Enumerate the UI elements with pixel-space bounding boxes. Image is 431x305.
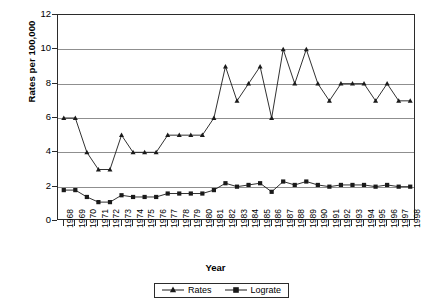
line-chart: Rates per 100,000 024681012 196819691970… [0, 0, 431, 305]
y-tick-label: 2 [25, 181, 51, 190]
data-point-rates [292, 81, 297, 86]
legend-marker-square-icon [225, 285, 247, 295]
x-tick-label: 1987 [286, 188, 294, 228]
y-tick-mark [52, 117, 57, 118]
x-tick-label: 1972 [112, 188, 120, 228]
x-tick-label: 1995 [378, 188, 386, 228]
data-point-lograte [304, 179, 308, 183]
data-point-lograte [385, 183, 389, 187]
x-tick-label: 1973 [124, 188, 132, 228]
x-tick-label: 1998 [413, 188, 421, 228]
data-point-lograte [362, 183, 366, 187]
x-tick-label: 1978 [182, 188, 190, 228]
x-tick-label: 1977 [170, 188, 178, 228]
data-point-rates [84, 150, 89, 155]
data-point-rates [269, 115, 274, 120]
x-tick-label: 1971 [101, 188, 109, 228]
x-tick-label: 1988 [297, 188, 305, 228]
x-axis-title: Year [0, 262, 431, 273]
x-tick-label: 1990 [320, 188, 328, 228]
legend-label-rates: Rates [188, 285, 212, 295]
y-tick-mark [52, 186, 57, 187]
x-tick-label: 1979 [193, 188, 201, 228]
x-tick-label: 1984 [251, 188, 259, 228]
x-tick-label: 1994 [367, 188, 375, 228]
data-point-lograte [281, 179, 285, 183]
chart-legend: Rates Lograte [154, 283, 289, 298]
y-tick-mark [52, 14, 57, 15]
y-tick-label: 4 [25, 146, 51, 155]
x-tick-label: 1989 [309, 188, 317, 228]
data-point-lograte [293, 183, 297, 187]
x-tick-label: 1986 [274, 188, 282, 228]
y-tick-label: 6 [25, 112, 51, 121]
data-point-rates [385, 81, 390, 86]
data-point-rates [281, 47, 286, 52]
y-tick-label: 12 [25, 9, 51, 18]
data-point-rates [119, 133, 124, 138]
series-line-rates [64, 49, 410, 169]
legend-item-lograte: Lograte [225, 285, 282, 295]
legend-item-rates: Rates [162, 285, 212, 295]
y-tick-label: 8 [25, 78, 51, 87]
data-point-lograte [258, 181, 262, 185]
data-point-lograte [350, 183, 354, 187]
x-tick-label: 1985 [263, 188, 271, 228]
y-tick-label: 10 [25, 43, 51, 52]
x-tick-label: 1974 [136, 188, 144, 228]
x-tick-label: 1983 [240, 188, 248, 228]
x-tick-mark [63, 220, 64, 226]
x-tick-label: 1997 [401, 188, 409, 228]
data-point-lograte [246, 183, 250, 187]
x-tick-label: 1996 [390, 188, 398, 228]
x-tick-label: 1975 [147, 188, 155, 228]
data-point-lograte [119, 193, 123, 197]
x-tick-label: 1993 [355, 188, 363, 228]
legend-label-lograte: Lograte [251, 285, 282, 295]
data-point-rates [315, 81, 320, 86]
legend-marker-triangle-icon [162, 285, 184, 295]
data-point-lograte [223, 181, 227, 185]
y-tick-mark [52, 48, 57, 49]
data-point-lograte [316, 183, 320, 187]
x-tick-label: 1991 [332, 188, 340, 228]
x-tick-label: 1992 [343, 188, 351, 228]
x-tick-label: 1980 [205, 188, 213, 228]
data-point-rates [304, 47, 309, 52]
x-tick-label: 1970 [89, 188, 97, 228]
y-tick-mark [52, 220, 57, 221]
x-tick-label: 1969 [78, 188, 86, 228]
x-tick-label: 1981 [216, 188, 224, 228]
data-point-rates [258, 64, 263, 69]
x-tick-label: 1982 [228, 188, 236, 228]
y-tick-label: 0 [25, 215, 51, 224]
data-point-lograte [339, 183, 343, 187]
x-tick-label: 1968 [66, 188, 74, 228]
y-tick-mark [52, 83, 57, 84]
x-tick-label: 1976 [159, 188, 167, 228]
y-tick-mark [52, 151, 57, 152]
data-point-rates [211, 115, 216, 120]
data-point-rates [223, 64, 228, 69]
